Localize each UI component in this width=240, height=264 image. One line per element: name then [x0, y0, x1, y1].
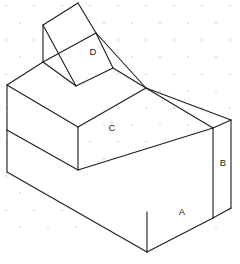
- grid-dot: [145, 5, 147, 7]
- isometric-figure: ABCD: [0, 0, 240, 264]
- grid-dot: [33, 5, 35, 7]
- grid-dot: [187, 56, 189, 58]
- solid-faces: [7, 3, 231, 252]
- grid-dot: [173, 39, 175, 41]
- grid-dot: [117, 73, 119, 75]
- face-label-c: C: [109, 122, 116, 133]
- grid-dot: [201, 39, 203, 41]
- grid-dot: [229, 39, 231, 41]
- grid-dot: [215, 56, 217, 58]
- grid-dot: [201, 73, 203, 75]
- grid-dot: [117, 5, 119, 7]
- grid-dot: [229, 5, 231, 7]
- face-label-d: D: [90, 46, 97, 57]
- grid-dot: [145, 39, 147, 41]
- grid-dot: [5, 5, 7, 7]
- drawing-canvas: ABCD: [0, 0, 240, 264]
- grid-dot: [33, 39, 35, 41]
- grid-dot: [187, 90, 189, 92]
- grid-dot: [19, 56, 21, 58]
- grid-dot: [5, 209, 7, 211]
- grid-dot: [173, 73, 175, 75]
- grid-dot: [131, 124, 133, 126]
- front-lower-face: [78, 128, 213, 252]
- grid-dot: [103, 124, 105, 126]
- grid-dot: [103, 158, 105, 160]
- grid-dot: [215, 226, 217, 228]
- grid-dot: [19, 22, 21, 24]
- grid-dot: [229, 73, 231, 75]
- grid-dot: [103, 22, 105, 24]
- edge-step-right-slope-to-near: [146, 88, 213, 128]
- edge-step-right-slope-to-far: [146, 88, 231, 120]
- grid-dot: [89, 141, 91, 143]
- grid-dot: [173, 5, 175, 7]
- grid-dot: [145, 107, 147, 109]
- grid-dot: [187, 124, 189, 126]
- grid-dot: [5, 175, 7, 177]
- face-label-b: B: [220, 157, 226, 168]
- grid-dot: [5, 73, 7, 75]
- grid-dot: [159, 124, 161, 126]
- grid-dot: [117, 141, 119, 143]
- grid-dot: [75, 226, 77, 228]
- grid-dot: [61, 5, 63, 7]
- grid-dot: [229, 107, 231, 109]
- grid-dot: [145, 73, 147, 75]
- grid-dot: [47, 226, 49, 228]
- grid-dot: [173, 107, 175, 109]
- grid-dot: [89, 5, 91, 7]
- grid-dot: [117, 107, 119, 109]
- grid-dot: [215, 90, 217, 92]
- right-upper-slope: [146, 88, 231, 128]
- grid-dot: [33, 209, 35, 211]
- grid-dot: [201, 5, 203, 7]
- right-end-face: [213, 120, 231, 218]
- grid-dot: [19, 226, 21, 228]
- grid-dot: [131, 22, 133, 24]
- grid-dot: [187, 22, 189, 24]
- face-label-a: A: [179, 206, 186, 217]
- grid-dot: [19, 192, 21, 194]
- grid-dot: [61, 209, 63, 211]
- grid-dot: [5, 39, 7, 41]
- grid-dot: [117, 39, 119, 41]
- grid-dot: [145, 141, 147, 143]
- grid-dot: [159, 90, 161, 92]
- grid-dot: [159, 22, 161, 24]
- grid-dot: [215, 22, 217, 24]
- grid-dot: [131, 56, 133, 58]
- grid-dot: [159, 56, 161, 58]
